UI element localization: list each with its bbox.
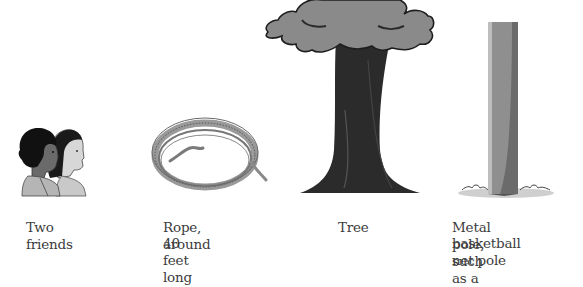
metal-pole-caption-line2: basketball net pole <box>452 235 521 269</box>
rope-caption-line2: 40 feet long <box>163 235 192 286</box>
